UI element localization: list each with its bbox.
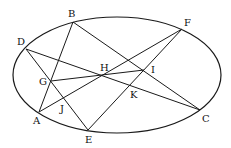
label-point-i: I bbox=[151, 64, 155, 75]
label-point-g: G bbox=[39, 76, 47, 87]
label-point-e: E bbox=[85, 134, 92, 145]
segment-BA bbox=[39, 22, 73, 112]
label-point-k: K bbox=[130, 89, 138, 100]
label-point-f: F bbox=[184, 17, 191, 28]
segment-GI bbox=[51, 70, 144, 81]
point-labels: ABCDEFGHIJK bbox=[17, 8, 210, 145]
line-segments bbox=[26, 22, 200, 130]
label-point-h: H bbox=[100, 62, 109, 73]
ellipse bbox=[13, 17, 221, 133]
segment-DC bbox=[26, 49, 200, 110]
label-point-a: A bbox=[32, 115, 41, 126]
segment-EF bbox=[88, 29, 182, 130]
label-point-j: J bbox=[59, 103, 64, 114]
label-point-b: B bbox=[68, 8, 75, 19]
geometry-diagram: ABCDEFGHIJK bbox=[0, 0, 231, 148]
segment-AF bbox=[39, 29, 182, 112]
label-point-c: C bbox=[202, 113, 210, 124]
label-point-d: D bbox=[17, 36, 25, 47]
